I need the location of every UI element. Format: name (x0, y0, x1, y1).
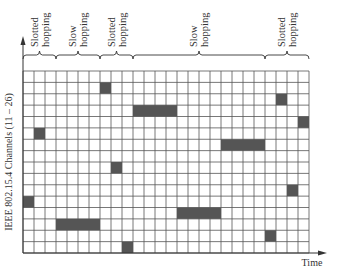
occupied-channel-slot (34, 128, 45, 139)
occupied-channel-slot (276, 94, 287, 105)
occupied-channel-slot (23, 196, 34, 207)
segment-brace (100, 51, 133, 59)
channel-hopping-diagram: Time IEEE 802.15.4 Channels (11 – 26) Sl… (0, 0, 338, 274)
segment-brace (56, 51, 100, 59)
segment-brace (23, 51, 56, 59)
segment-label: Slowhopping (188, 12, 210, 47)
segment-label: Slowhopping (67, 12, 89, 47)
occupied-channel-slot (265, 230, 276, 241)
occupied-channel-slot (111, 162, 122, 173)
svg-text:hopping: hopping (199, 12, 210, 47)
x-axis (23, 251, 327, 256)
occupied-channel-slot (287, 185, 298, 196)
x-axis-arrow-icon (318, 251, 327, 256)
svg-text:Slotted: Slotted (106, 16, 117, 47)
occupied-channel-slot (122, 242, 133, 253)
segment-label: Slottedhopping (106, 12, 128, 47)
y-axis-label: IEEE 802.15.4 Channels (11 – 26) (3, 93, 15, 231)
occupied-channel-slot (100, 82, 111, 93)
segment-braces (23, 51, 309, 59)
svg-text:hopping: hopping (78, 12, 89, 47)
svg-text:hopping: hopping (287, 12, 298, 47)
segment-brace (133, 51, 265, 59)
svg-text:Slow: Slow (188, 25, 199, 47)
segment-labels: SlottedhoppingSlowhoppingSlottedhoppingS… (29, 12, 299, 47)
segment-label: Slottedhopping (29, 12, 51, 47)
svg-text:hopping: hopping (117, 12, 128, 47)
x-axis-label: Time (302, 257, 323, 268)
segment-label: Slottedhopping (276, 12, 298, 47)
y-axis (21, 36, 26, 253)
svg-text:Slotted: Slotted (276, 16, 287, 47)
segment-brace (265, 51, 309, 59)
svg-text:hopping: hopping (40, 12, 51, 47)
y-axis-arrow-icon (21, 36, 26, 45)
occupied-channel-slot (298, 117, 309, 128)
svg-text:Slotted: Slotted (29, 16, 40, 47)
svg-text:Slow: Slow (67, 25, 78, 47)
